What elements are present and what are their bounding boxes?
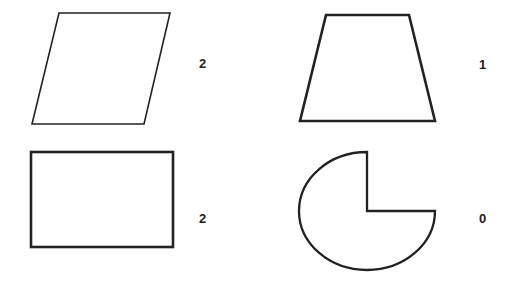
rectangle-count-label: 2 <box>199 212 206 225</box>
rectangle-shape <box>31 152 173 247</box>
shapes-diagram <box>0 0 508 285</box>
three-quarter-circle-count-label: 0 <box>479 212 486 225</box>
parallelogram-shape <box>32 13 170 124</box>
trapezoid-count-label: 1 <box>479 58 486 71</box>
parallelogram-count-label: 2 <box>199 57 206 70</box>
trapezoid-shape <box>300 15 435 121</box>
three-quarter-circle-shape <box>299 152 435 270</box>
